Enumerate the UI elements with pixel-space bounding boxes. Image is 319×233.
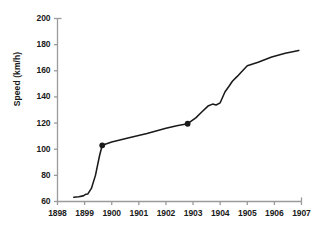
axes: [54, 19, 302, 206]
chart-canvas: [0, 0, 319, 233]
speed-record-chart: Speed (km/h) 6080100120140160180200 1898…: [0, 0, 319, 233]
